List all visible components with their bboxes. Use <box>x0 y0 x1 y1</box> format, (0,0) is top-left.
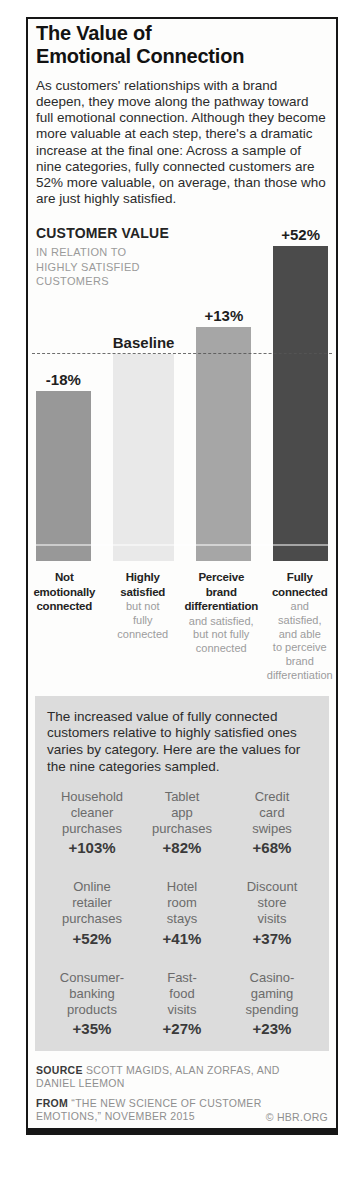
scan-artifact-line <box>36 544 328 546</box>
intro-text: As customers' relationships with a brand… <box>36 78 328 208</box>
infographic-frame: The Value of Emotional Connection As cus… <box>26 17 338 1135</box>
category-grid: Household cleaner purchases +103% Tablet… <box>47 789 317 1037</box>
bar-category-not-connected: Not emotionally connected <box>36 570 93 682</box>
source-line: SOURCE SCOTT MAGIDS, ALAN ZORFAS, AND DA… <box>36 1064 308 1090</box>
bar-value-label: +13% <box>204 307 243 324</box>
bar-category-labels: Not emotionally connected Highly satisfi… <box>36 570 328 682</box>
from-text: “THE NEW SCIENCE OF CUSTOMER EMOTIONS,” … <box>36 1097 262 1122</box>
category-cell-value: +35% <box>47 1020 137 1037</box>
category-cell-name: Fast- food visits <box>137 970 227 1018</box>
category-cell-value: +103% <box>47 839 137 856</box>
category-cell-value: +68% <box>227 839 317 856</box>
page: The Value of Emotional Connection As cus… <box>0 0 355 1179</box>
category-cell-name: Credit card swipes <box>227 789 317 837</box>
bar-category-highly-satisfied: Highly satisfied but not fully connected <box>115 570 172 682</box>
category-cell: Casino- gaming spending +23% <box>227 970 317 1037</box>
category-cell-value: +27% <box>137 1020 227 1037</box>
category-cell-name: Hotel room stays <box>137 879 227 927</box>
category-note: and satisfied, and able to perceive bran… <box>252 600 339 683</box>
category-cell-value: +41% <box>137 930 227 947</box>
category-cell: Discount store visits +37% <box>227 879 317 946</box>
bar-column-not-connected: -18% <box>36 371 91 561</box>
panel-text: The increased value of fully connected c… <box>47 709 317 776</box>
customer-value-chart: CUSTOMER VALUE IN RELATION TO HIGHLY SAT… <box>36 227 328 561</box>
category-cell-name: Tablet app purchases <box>137 789 227 837</box>
chart-bar <box>113 354 175 561</box>
category-cell: Hotel room stays +41% <box>137 879 227 946</box>
category-cell: Online retailer purchases +52% <box>47 879 137 946</box>
bar-category-perceive-brand: Perceive brand differentiation and satis… <box>193 570 250 682</box>
bar-column-highly-satisfied: Baseline <box>113 334 175 561</box>
baseline-line <box>32 353 332 354</box>
category-name: Fully connected <box>252 570 339 599</box>
chart-bar <box>273 246 328 561</box>
category-cell-value: +82% <box>137 839 227 856</box>
chart-header: CUSTOMER VALUE IN RELATION TO HIGHLY SAT… <box>36 225 169 288</box>
category-cell-name: Casino- gaming spending <box>227 970 317 1018</box>
category-cell-value: +37% <box>227 930 317 947</box>
source-label: SOURCE <box>36 1064 83 1076</box>
category-panel: The increased value of fully connected c… <box>35 696 329 1051</box>
category-cell: Fast- food visits +27% <box>137 970 227 1037</box>
bar-column-perceive-brand: +13% <box>196 307 251 561</box>
category-cell-value: +52% <box>47 930 137 947</box>
bar-column-fully-connected: +52% <box>273 226 328 561</box>
chart-title: CUSTOMER VALUE <box>36 225 169 241</box>
category-cell: Credit card swipes +68% <box>227 789 317 856</box>
category-cell-name: Discount store visits <box>227 879 317 927</box>
chart-bar <box>36 391 91 561</box>
title: The Value of Emotional Connection <box>36 22 328 69</box>
footer: SOURCE SCOTT MAGIDS, ALAN ZORFAS, AND DA… <box>36 1064 328 1129</box>
copyright: © HBR.ORG <box>266 1111 328 1123</box>
category-cell-name: Household cleaner purchases <box>47 789 137 837</box>
category-cell-name: Online retailer purchases <box>47 879 137 927</box>
category-cell-value: +23% <box>227 1020 317 1037</box>
category-cell: Household cleaner purchases +103% <box>47 789 137 856</box>
category-cell: Tablet app purchases +82% <box>137 789 227 856</box>
bar-category-fully-connected: Fully connected and satisfied, and able … <box>272 570 329 682</box>
category-cell: Consumer- banking products +35% <box>47 970 137 1037</box>
category-cell-name: Consumer- banking products <box>47 970 137 1018</box>
baseline-label: Baseline <box>113 334 175 351</box>
from-label: FROM <box>36 1097 68 1109</box>
chart-bar <box>196 327 251 561</box>
bar-value-label: -18% <box>46 371 81 388</box>
bar-value-label: +52% <box>281 226 320 243</box>
chart-subtitle: IN RELATION TO HIGHLY SATISFIED CUSTOMER… <box>36 245 169 288</box>
